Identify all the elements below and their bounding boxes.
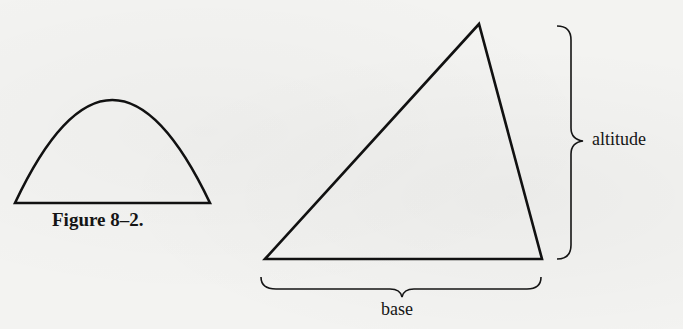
- altitude-brace: [557, 26, 583, 259]
- figure-caption: Figure 8–2.: [52, 210, 143, 229]
- altitude-label: altitude: [592, 130, 646, 148]
- base-label: base: [381, 300, 413, 318]
- parabolic-arch-shape: [15, 100, 210, 203]
- textbook-page: Figure 8–2. altitude base: [0, 0, 683, 329]
- triangle-shape: [265, 24, 542, 259]
- geometry-figure: [0, 0, 683, 329]
- base-brace: [261, 277, 541, 297]
